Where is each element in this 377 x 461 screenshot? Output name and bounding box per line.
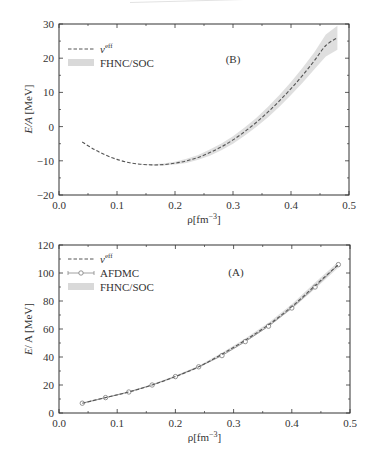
- x-tick-label: 0.2: [169, 417, 183, 429]
- y-tick-label: 30: [43, 18, 55, 30]
- y-tick-label: 60: [43, 323, 55, 335]
- panel-b-chart: 0.00.10.20.30.40.5−20−100102030ρ[fm−3]E/…: [22, 18, 356, 225]
- y-tick-label: 0: [49, 407, 55, 419]
- y-tick-label: −10: [37, 155, 55, 167]
- y-axis-label-unit: [MeV]: [22, 85, 34, 115]
- x-tick-label: 0.5: [342, 199, 356, 211]
- x-tick-label: 0.0: [52, 199, 66, 211]
- panel-label: (A): [228, 266, 244, 279]
- y-tick-label: 80: [43, 295, 55, 307]
- x-tick-label: 0.3: [226, 199, 240, 211]
- x-axis-label-exponent: −3: [209, 430, 218, 439]
- x-axis-label-bracket: ]: [218, 431, 222, 443]
- y-tick-label: 100: [38, 267, 55, 279]
- y-axis-label: E/ A [MeV]: [22, 303, 34, 356]
- y-tick-label: 20: [43, 379, 55, 391]
- y-tick-label: 120: [38, 239, 55, 251]
- x-tick-label: 0.1: [110, 199, 124, 211]
- legend-label: FHNC/SOC: [100, 57, 154, 69]
- legend-item: FHNC/SOC: [68, 281, 154, 293]
- y-tick-label: 0: [49, 121, 55, 133]
- x-tick-label: 0.1: [110, 417, 124, 429]
- panel-label: (B): [226, 53, 241, 66]
- y-axis-label-unit: / A [MeV]: [22, 303, 34, 348]
- legend-label: veff: [100, 252, 113, 265]
- legend-item: veff: [68, 252, 113, 265]
- x-tick-label: 0.0: [52, 417, 66, 429]
- x-axis-label: ρ[fm−3]: [187, 212, 221, 225]
- figure: 0.00.10.20.30.40.5−20−100102030ρ[fm−3]E/…: [0, 0, 377, 461]
- panel-a-chart: 0.00.10.20.30.40.5020406080100120ρ[fm−3]…: [22, 239, 357, 443]
- legend-item: AFDMC: [68, 267, 139, 279]
- fhnc-soc-band: [82, 26, 337, 166]
- x-tick-label: 0.4: [285, 417, 299, 429]
- x-tick-label: 0.2: [168, 199, 182, 211]
- x-axis-label: ρ[fm−3]: [188, 430, 222, 443]
- x-axis-label-bracket: ]: [217, 213, 221, 225]
- x-tick-label: 0.4: [284, 199, 298, 211]
- legend-item: veff: [68, 42, 113, 55]
- y-axis-label: E/A [MeV]: [22, 85, 34, 135]
- legend-item: FHNC/SOC: [68, 57, 154, 69]
- legend-label-eff: eff: [105, 42, 113, 50]
- legend-label: veff: [100, 42, 113, 55]
- y-tick-label: −20: [37, 189, 55, 201]
- x-axis-label-exponent: −3: [209, 212, 218, 221]
- y-tick-label: 10: [43, 86, 55, 98]
- legend-circle-marker: [79, 271, 83, 275]
- y-tick-label: 20: [43, 52, 55, 64]
- legend-label-eff: eff: [105, 252, 113, 260]
- x-tick-label: 0.3: [227, 417, 241, 429]
- legend-band-swatch: [68, 59, 94, 66]
- y-tick-label: 40: [43, 351, 55, 363]
- x-tick-label: 0.5: [343, 417, 357, 429]
- legend-label: AFDMC: [100, 267, 139, 279]
- legend-band-swatch: [68, 283, 94, 290]
- legend-label: FHNC/SOC: [100, 281, 154, 293]
- y-axis-label-e: E/A: [22, 114, 34, 134]
